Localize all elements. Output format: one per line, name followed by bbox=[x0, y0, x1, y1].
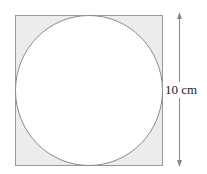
diagram: 10 cm bbox=[0, 0, 207, 174]
arrowhead-down-icon bbox=[177, 160, 182, 167]
dimension-label: 10 cm bbox=[164, 82, 198, 98]
inscribed-circle bbox=[16, 16, 163, 166]
arrowhead-up-icon bbox=[177, 12, 182, 19]
